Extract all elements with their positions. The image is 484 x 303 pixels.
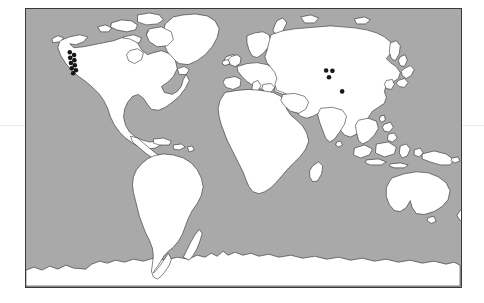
landmass-india: [318, 107, 347, 142]
occurrence-dot-asia-1: [324, 68, 329, 73]
landmass-antarctica: [26, 251, 460, 286]
landmass-korea: [384, 79, 394, 89]
landmass-new-guinea: [422, 151, 454, 165]
occurrence-dot-asia-2: [330, 69, 335, 74]
landmass-borneo: [375, 142, 396, 157]
landmass-sri-lanka: [336, 141, 343, 147]
occurrence-dot-asia-4: [340, 89, 345, 94]
landmass-lesser-antilles: [187, 146, 194, 152]
landmass-philippines-b: [387, 133, 397, 142]
landmass-arctic-archipelago-b: [137, 13, 163, 25]
landmass-sakhalin: [398, 55, 407, 67]
world-map-frame: [25, 8, 462, 288]
landmass-java: [365, 159, 386, 165]
landmass-sumatra: [353, 145, 372, 158]
landmass-arctic-archipelago-a: [111, 20, 138, 32]
landmass-philippines-a: [382, 122, 393, 132]
landmass-hispaniola: [173, 144, 185, 150]
landmass-kamchatka: [389, 41, 400, 61]
landmass-lesser-sunda: [389, 163, 408, 168]
landmass-newfoundland: [177, 67, 189, 75]
landmass-severnaya-zemlya: [301, 15, 319, 23]
occurrence-dot-na-3: [68, 56, 73, 61]
landmass-moluccas: [414, 148, 423, 157]
landmass-cuba: [153, 138, 171, 145]
occurrence-dot-na-9: [71, 71, 76, 76]
occurrence-dot-na-5: [69, 61, 74, 66]
occurrence-dot-na-1: [68, 50, 73, 55]
landmass-indochina: [355, 118, 378, 144]
landmass-madagascar: [310, 162, 323, 182]
occurrence-dot-na-7: [70, 66, 75, 71]
figure-canvas: [0, 0, 484, 303]
landmass-tasmania: [427, 217, 436, 224]
world-map-svg: [26, 9, 461, 287]
landmass-arctic-archipelago-e: [98, 25, 112, 32]
landmass-japan-south: [396, 79, 408, 88]
occurrence-dot-asia-3: [327, 75, 332, 80]
landmass-iberia: [223, 77, 241, 90]
landmass-new-siberian-islands: [354, 17, 370, 24]
landmass-australia: [386, 172, 450, 215]
landmass-taiwan: [379, 115, 385, 122]
landmass-new-zealand-south: [457, 208, 461, 221]
landmass-japan: [401, 66, 414, 79]
occurrence-dot-na-2: [72, 53, 77, 58]
landmass-sulawesi: [399, 144, 410, 158]
